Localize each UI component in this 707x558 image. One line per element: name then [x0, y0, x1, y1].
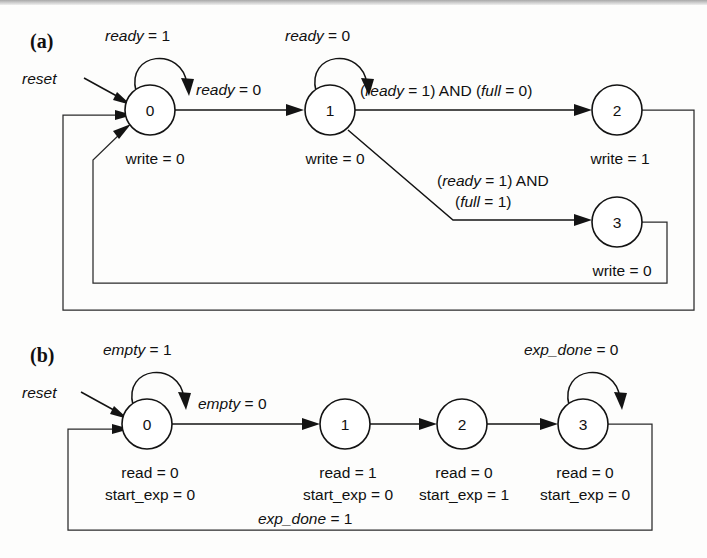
panel-b-state-3[interactable]: 3: [558, 399, 608, 449]
panel-a: (a) reset ready = 1 0 write = 0: [22, 27, 694, 310]
panel-a-state-2[interactable]: 2: [592, 85, 642, 135]
panel-b-selfloop-0-label: empty = 1: [103, 341, 172, 358]
panel-a-arrowhead-1-to-2: [574, 104, 592, 116]
panel-a-transition-1-to-3-label-line2: (full = 1): [455, 193, 511, 210]
panel-b-arrowhead-1-to-2: [419, 418, 437, 430]
panel-b-state-0[interactable]: 0: [122, 399, 172, 449]
panel-b: (b) reset exp_done = 1 empty = 1 0 read …: [22, 341, 652, 530]
panel-a-state-0-label: 0: [146, 102, 155, 119]
panel-b-transition-3-to-0-label: exp_done = 1: [258, 510, 352, 527]
panel-a-selfloop-1-label: ready = 0: [285, 27, 350, 44]
panel-b-state-3-output-1: read = 0: [556, 464, 614, 481]
panel-a-state-1-output: write = 0: [304, 150, 364, 167]
panel-b-state-2-output-2: start_exp = 1: [419, 486, 509, 503]
panel-a-state-1-label: 1: [326, 102, 335, 119]
panel-a-arrowhead-0-to-1: [286, 104, 304, 116]
panel-a-selfloop-0-arrowhead: [181, 78, 194, 96]
panel-b-state-2-label: 2: [458, 416, 467, 433]
panel-a-label: (a): [30, 30, 53, 53]
panel-a-state-3[interactable]: 3: [592, 197, 642, 247]
panel-b-state-0-output-1: read = 0: [121, 464, 179, 481]
panel-a-state-3-label: 3: [613, 214, 622, 231]
panel-a-state-0-output: write = 0: [124, 150, 184, 167]
panel-a-selfloop-0-label: ready = 1: [105, 27, 170, 44]
panel-b-arrowhead-0-to-1: [302, 418, 320, 430]
panel-b-state-3-output-2: start_exp = 0: [540, 486, 630, 503]
panel-b-state-1-label: 1: [341, 416, 350, 433]
panel-b-state-1[interactable]: 1: [320, 399, 370, 449]
panel-b-selfloop-3-arrowhead: [614, 392, 627, 410]
panel-b-state-3-label: 3: [579, 416, 588, 433]
panel-b-transition-0-to-1-label: empty = 0: [198, 395, 267, 412]
panel-b-reset-label: reset: [22, 384, 57, 401]
panel-a-state-3-output: write = 0: [591, 262, 651, 279]
panel-a-state-2-label: 2: [613, 102, 622, 119]
panel-a-state-0[interactable]: 0: [125, 85, 175, 135]
panel-a-reset-label: reset: [22, 70, 57, 87]
panel-b-state-0-label: 0: [143, 416, 152, 433]
panel-a-transition-1-to-3-label-line1: (ready = 1) AND: [437, 172, 549, 189]
panel-b-state-0-output-2: start_exp = 0: [105, 486, 195, 503]
figure-page: (a) reset ready = 1 0 write = 0: [0, 0, 707, 558]
panel-b-arrowhead-2-to-3: [540, 418, 558, 430]
panel-a-state-1[interactable]: 1: [305, 85, 355, 135]
panel-a-transition-0-to-1-label: ready = 0: [196, 81, 261, 98]
panel-b-selfloop-3-label: exp_done = 0: [524, 341, 619, 358]
panel-a-arrowhead-1-to-3: [574, 214, 592, 226]
panel-a-state-2-output: write = 1: [589, 150, 649, 167]
panel-a-arrowhead-3-to-0: [113, 124, 131, 139]
panel-b-label: (b): [30, 344, 54, 367]
panel-a-transition-1-to-2-label: (ready = 1) AND (full = 0): [360, 82, 532, 99]
panel-b-state-2[interactable]: 2: [437, 399, 487, 449]
panel-b-state-1-output-2: start_exp = 0: [303, 486, 393, 503]
panel-b-state-2-output-1: read = 0: [435, 464, 493, 481]
panel-b-state-1-output-1: read = 1: [319, 464, 376, 481]
panel-b-selfloop-0-arrowhead: [178, 392, 191, 410]
state-machine-figure: (a) reset ready = 1 0 write = 0: [0, 0, 707, 558]
